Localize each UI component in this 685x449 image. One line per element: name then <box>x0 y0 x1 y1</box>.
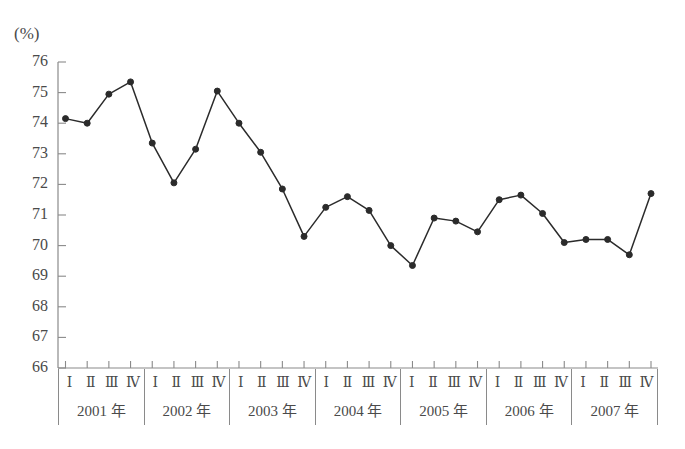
x-axis-quarter-row: ⅠⅡⅢⅣ <box>572 369 657 397</box>
data-point-marker <box>193 146 199 152</box>
data-point-marker <box>63 116 69 122</box>
data-point-marker <box>301 233 307 239</box>
data-point-marker <box>496 197 502 203</box>
data-point-marker <box>626 252 632 258</box>
x-axis-quarter-label: Ⅲ <box>272 369 293 397</box>
x-axis-quarter-label: Ⅳ <box>294 369 315 397</box>
data-point-marker <box>366 207 372 213</box>
x-axis-quarter-label: Ⅳ <box>208 369 229 397</box>
x-axis-quarter-label: Ⅱ <box>508 369 529 397</box>
y-axis-tick-label: 74 <box>14 113 48 131</box>
x-axis-quarter-label: Ⅲ <box>444 369 465 397</box>
x-axis-quarter-row: ⅠⅡⅢⅣ <box>145 369 230 397</box>
axis-group <box>58 62 658 368</box>
data-point-marker <box>84 120 90 126</box>
x-axis-quarter-label: Ⅲ <box>101 369 122 397</box>
y-axis-tick-label: 67 <box>14 327 48 345</box>
x-axis-year-label: 2005 年 <box>401 397 486 425</box>
data-point-marker <box>409 262 415 268</box>
x-axis-quarter-label: Ⅰ <box>487 369 508 397</box>
data-point-marker <box>279 186 285 192</box>
data-point-marker <box>648 191 654 197</box>
x-axis-quarter-label: Ⅱ <box>251 369 272 397</box>
data-point-marker <box>149 140 155 146</box>
data-point-marker <box>431 215 437 221</box>
x-axis-year-block: ⅠⅡⅢⅣ2005 年 <box>401 369 487 425</box>
x-axis-year-label: 2004 年 <box>316 397 401 425</box>
x-axis-quarter-label: Ⅰ <box>145 369 166 397</box>
y-axis-tick-label: 75 <box>14 83 48 101</box>
x-axis-labels-table: ⅠⅡⅢⅣ2001 年ⅠⅡⅢⅣ2002 年ⅠⅡⅢⅣ2003 年ⅠⅡⅢⅣ2004 年… <box>58 369 658 425</box>
x-axis-year-block: ⅠⅡⅢⅣ2002 年 <box>145 369 231 425</box>
x-axis-quarter-label: Ⅰ <box>572 369 593 397</box>
x-axis-quarter-label: Ⅱ <box>422 369 443 397</box>
x-axis-quarter-label: Ⅰ <box>230 369 251 397</box>
data-point-marker <box>388 243 394 249</box>
data-point-marker <box>236 120 242 126</box>
x-axis-quarter-label: Ⅲ <box>187 369 208 397</box>
x-axis-year-block: ⅠⅡⅢⅣ2004 年 <box>316 369 402 425</box>
y-axis-tick-label: 73 <box>14 144 48 162</box>
data-point-marker <box>540 210 546 216</box>
data-point-marker <box>171 180 177 186</box>
y-axis-tick-label: 69 <box>14 266 48 284</box>
data-point-marker <box>605 236 611 242</box>
x-axis-quarter-label: Ⅳ <box>636 369 657 397</box>
data-point-marker <box>106 91 112 97</box>
x-axis-quarter-label: Ⅲ <box>358 369 379 397</box>
x-axis-quarter-row: ⅠⅡⅢⅣ <box>316 369 401 397</box>
x-axis-quarter-label: Ⅲ <box>615 369 636 397</box>
x-axis-quarter-label: Ⅰ <box>59 369 80 397</box>
x-axis-quarter-row: ⅠⅡⅢⅣ <box>59 369 144 397</box>
x-axis-quarter-label: Ⅳ <box>379 369 400 397</box>
data-point-marker <box>258 149 264 155</box>
line-chart: (%) 7675747372717069686766 ⅠⅡⅢⅣ2001 年ⅠⅡⅢ… <box>0 0 685 449</box>
x-axis-quarter-row: ⅠⅡⅢⅣ <box>401 369 486 397</box>
data-point-marker <box>344 194 350 200</box>
x-axis-quarter-label: Ⅳ <box>465 369 486 397</box>
x-axis-year-label: 2003 年 <box>230 397 315 425</box>
y-axis-tick-label: 68 <box>14 297 48 315</box>
x-axis-year-block: ⅠⅡⅢⅣ2001 年 <box>59 369 145 425</box>
data-point-marker <box>453 218 459 224</box>
x-axis-year-label: 2001 年 <box>59 397 144 425</box>
x-axis-quarter-label: Ⅲ <box>529 369 550 397</box>
data-point-marker <box>561 240 567 246</box>
y-axis-tick-label: 72 <box>14 174 48 192</box>
data-point-marker <box>323 204 329 210</box>
x-axis-quarter-label: Ⅳ <box>550 369 571 397</box>
data-point-marker <box>583 236 589 242</box>
x-axis-quarter-label: Ⅳ <box>122 369 143 397</box>
x-axis-quarter-label: Ⅱ <box>80 369 101 397</box>
data-series-group <box>63 79 655 269</box>
x-axis-quarter-label: Ⅱ <box>337 369 358 397</box>
x-axis-year-label: 2007 年 <box>572 397 657 425</box>
data-point-marker <box>214 88 220 94</box>
x-axis-year-label: 2006 年 <box>487 397 572 425</box>
x-axis-year-block: ⅠⅡⅢⅣ2006 年 <box>487 369 573 425</box>
x-axis-quarter-label: Ⅰ <box>401 369 422 397</box>
x-axis-quarter-label: Ⅱ <box>594 369 615 397</box>
y-axis-tick-label: 66 <box>14 358 48 376</box>
x-axis-year-label: 2002 年 <box>145 397 230 425</box>
x-axis-quarter-label: Ⅰ <box>316 369 337 397</box>
x-axis-quarter-label: Ⅱ <box>166 369 187 397</box>
x-axis-quarter-row: ⅠⅡⅢⅣ <box>230 369 315 397</box>
x-axis-year-block: ⅠⅡⅢⅣ2003 年 <box>230 369 316 425</box>
y-axis-tick-label: 70 <box>14 236 48 254</box>
data-point-marker <box>518 192 524 198</box>
series-line <box>66 82 652 266</box>
data-point-marker <box>128 79 134 85</box>
data-point-marker <box>475 229 481 235</box>
x-axis-quarter-row: ⅠⅡⅢⅣ <box>487 369 572 397</box>
y-axis-tick-label: 71 <box>14 205 48 223</box>
x-axis-year-block: ⅠⅡⅢⅣ2007 年 <box>572 369 657 425</box>
y-axis-tick-label: 76 <box>14 52 48 70</box>
